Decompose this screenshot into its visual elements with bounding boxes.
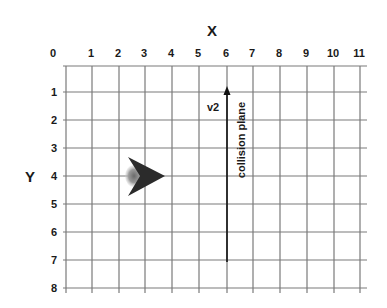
x-tick-label: 8 — [276, 47, 282, 59]
y-tick-label: 3 — [51, 142, 57, 154]
y-tick-label: 8 — [51, 282, 57, 294]
x-tick-label: 9 — [303, 47, 309, 59]
x-tick-label: 3 — [141, 47, 147, 59]
x-tick-label: 6 — [223, 47, 229, 59]
y-tick-label: 4 — [51, 170, 57, 182]
y-axis-title: Y — [25, 168, 35, 185]
vector-v2-arrow — [224, 86, 231, 262]
vector-label: v2 — [207, 101, 219, 113]
x-axis-title: X — [207, 22, 217, 39]
x-tick-label: 4 — [168, 47, 174, 59]
collision-plane-label: collision plane — [235, 102, 247, 178]
y-tick-label: 6 — [51, 226, 57, 238]
y-tick-label: 1 — [51, 86, 57, 98]
diagram-canvas: 01234567891011 12345678 X Y v2 collision… — [0, 0, 387, 308]
x-tick-label: 11 — [353, 47, 365, 59]
y-tick-label: 5 — [51, 198, 57, 210]
y-tick-label: 2 — [51, 114, 57, 126]
x-tick-label: 2 — [115, 47, 121, 59]
x-tick-label: 1 — [88, 47, 94, 59]
y-tick-label: 7 — [51, 254, 57, 266]
x-tick-label: 7 — [249, 47, 255, 59]
x-tick-label: 5 — [195, 47, 201, 59]
x-tick-label: 0 — [50, 47, 56, 59]
x-tick-label: 10 — [327, 47, 339, 59]
